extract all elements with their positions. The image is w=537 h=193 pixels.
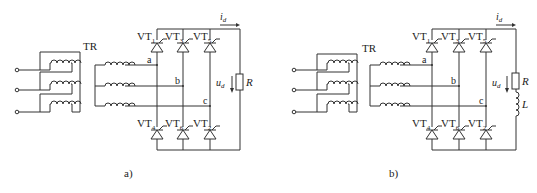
voltage-arrow [230, 76, 234, 93]
label-vt3: VT3 [165, 30, 184, 45]
label-vt1: VT1 [412, 30, 431, 45]
current-label: id [220, 11, 227, 24]
inductor [511, 92, 521, 116]
primary-windings [40, 52, 81, 112]
caption-b: b) [389, 167, 399, 180]
primary-terminals [15, 68, 50, 114]
inductor-label: L [521, 98, 528, 110]
resistor-label: R [245, 76, 253, 88]
resistor-label: R [521, 75, 529, 87]
voltage-arrow [505, 76, 509, 93]
phase-b-label: b [451, 75, 456, 86]
secondary-windings [95, 62, 210, 106]
label-vt5: VT5 [468, 30, 487, 45]
secondary-windings [370, 62, 486, 106]
transformer-label: TR [362, 42, 377, 54]
label-vt6: VT6 [165, 117, 184, 132]
primary-windings [317, 54, 358, 112]
label-vt1: VT1 [137, 30, 156, 45]
figure-canvas: TR a b c [0, 0, 537, 193]
voltage-label: ud [216, 77, 225, 90]
voltage-label: ud [492, 77, 501, 90]
bridge [156, 29, 240, 150]
bridge [431, 29, 516, 150]
label-vt6: VT6 [441, 117, 460, 132]
label-vt2: VT2 [468, 117, 487, 132]
label-vt4: VT4 [137, 117, 156, 132]
transformer-label: TR [83, 40, 98, 52]
caption-a: a) [124, 167, 133, 180]
label-vt2: VT2 [193, 117, 212, 132]
panel-a: TR a b c [15, 11, 253, 180]
label-vt3: VT3 [441, 30, 460, 45]
resistor [512, 73, 519, 89]
phase-c-label: c [203, 95, 208, 106]
phase-b-label: b [175, 75, 180, 86]
label-vt5: VT5 [193, 30, 212, 45]
phase-c-label: c [479, 95, 484, 106]
panel-b: TR a b c [292, 11, 529, 180]
phase-a-label: a [422, 54, 427, 65]
primary-terminals [292, 68, 327, 114]
current-label: id [496, 11, 503, 24]
resistor [236, 74, 243, 90]
label-vt4: VT4 [412, 117, 431, 132]
phase-a-label: a [147, 54, 152, 65]
